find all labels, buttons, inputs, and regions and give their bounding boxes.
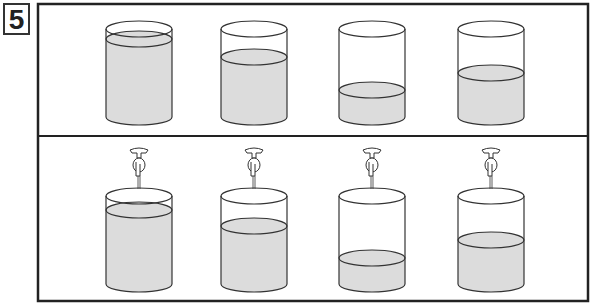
water-surface — [458, 232, 524, 248]
cylinder-with-faucet — [221, 148, 287, 292]
faucet-icon — [130, 148, 148, 189]
faucet-icon — [245, 148, 263, 189]
cylinder-with-faucet — [458, 148, 524, 292]
cylinder-rim — [458, 21, 524, 37]
cylinder-diagram — [0, 0, 592, 303]
cylinder-rim — [221, 188, 287, 204]
cylinder-rim — [458, 188, 524, 204]
faucet-icon — [363, 148, 381, 189]
cylinder-rim — [339, 21, 405, 37]
cylinder-top — [106, 21, 172, 125]
water-body — [106, 210, 172, 292]
cylinder-rim — [221, 21, 287, 37]
cylinder-top — [221, 21, 287, 125]
water-surface — [221, 218, 287, 234]
water-surface — [339, 250, 405, 266]
cylinder-rim — [339, 188, 405, 204]
cylinder-top — [458, 21, 524, 125]
water-surface — [458, 65, 524, 81]
water-body — [221, 226, 287, 292]
water-surface — [221, 49, 287, 65]
water-body — [106, 39, 172, 125]
water-surface — [339, 82, 405, 98]
faucet-icon — [482, 148, 500, 189]
cylinder-top — [339, 21, 405, 125]
water-surface — [106, 31, 172, 47]
water-body — [221, 57, 287, 125]
cylinder-with-faucet — [339, 148, 405, 292]
cylinder-with-faucet — [106, 148, 172, 292]
